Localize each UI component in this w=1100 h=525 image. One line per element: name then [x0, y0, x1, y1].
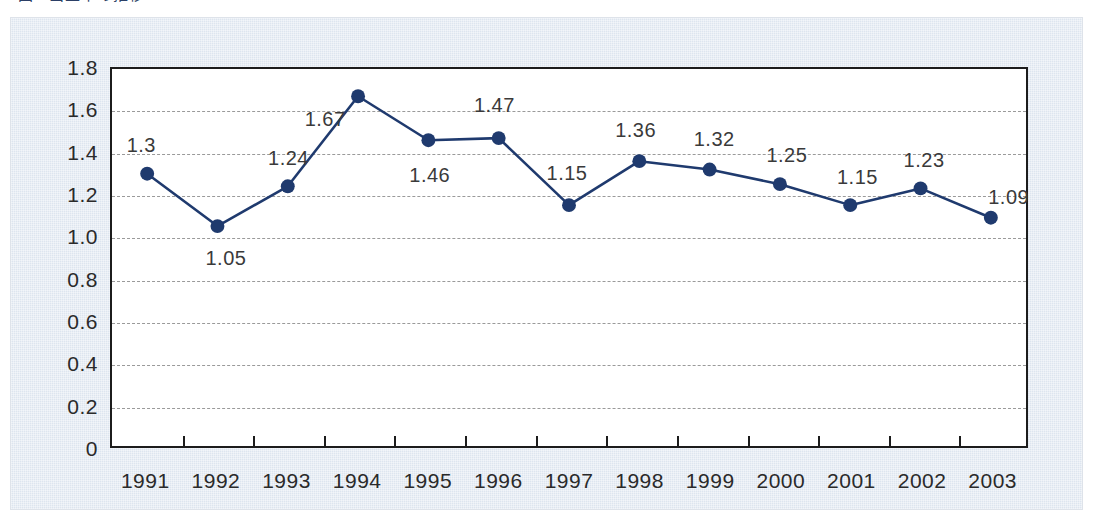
data-point-marker [421, 133, 435, 147]
y-axis-tick-label: 0.8 [28, 269, 98, 290]
x-axis-tick-label: 1999 [675, 470, 746, 492]
data-point-label: 1.67 [305, 109, 346, 129]
data-point-marker [281, 179, 295, 193]
line-series [112, 69, 1026, 446]
data-point-marker [632, 154, 646, 168]
data-point-marker [210, 219, 224, 233]
caption-sliver: 図1 出生率の推移 [18, 0, 578, 7]
x-axis-tick-label: 1998 [604, 470, 675, 492]
y-axis-tick-label: 1.4 [28, 142, 98, 163]
x-axis-tick-label: 1997 [534, 470, 605, 492]
data-point-marker [984, 211, 998, 225]
plot-area: 1.31.051.241.671.461.471.151.361.321.251… [110, 67, 1028, 448]
x-axis-tick-label: 1992 [181, 470, 252, 492]
x-axis-tick-label: 1993 [251, 470, 322, 492]
x-axis-tick-label: 2000 [746, 470, 817, 492]
data-point-label: 1.25 [766, 145, 807, 165]
data-point-marker [351, 89, 365, 103]
caption-sliver-text: 図1 出生率の推移 [18, 0, 145, 3]
x-axis-tick-label: 1991 [110, 470, 181, 492]
x-axis-tick-label: 1995 [392, 470, 463, 492]
data-point-label: 1.36 [615, 120, 656, 140]
data-point-label: 1.32 [694, 129, 735, 149]
data-point-label: 1.15 [547, 163, 588, 183]
y-axis-tick-label: 1.0 [28, 226, 98, 247]
x-axis-tick-label: 1996 [463, 470, 534, 492]
data-point-marker [843, 198, 857, 212]
data-point-marker [703, 163, 717, 177]
x-axis-tick-label: 2003 [957, 470, 1028, 492]
y-axis-tick-label: 0.6 [28, 311, 98, 332]
figure-page: 図1 出生率の推移 00.20.40.60.81.01.21.41.61.8 1… [0, 0, 1100, 525]
data-point-label: 1.05 [205, 248, 246, 268]
y-axis-tick-label: 1.6 [28, 99, 98, 120]
y-axis-tick-label: 1.2 [28, 184, 98, 205]
y-axis-tick-label: 0 [28, 438, 98, 459]
data-point-label: 1.46 [409, 165, 450, 185]
data-point-marker [914, 181, 928, 195]
x-axis-tick-label: 1994 [322, 470, 393, 492]
x-axis-tick-label: 2002 [887, 470, 958, 492]
data-point-label: 1.47 [474, 95, 515, 115]
x-axis-tick-label: 2001 [816, 470, 887, 492]
data-point-label: 1.24 [268, 148, 309, 168]
y-axis-tick-label: 0.4 [28, 353, 98, 374]
data-point-label: 1.23 [904, 150, 945, 170]
data-point-marker [140, 167, 154, 181]
y-axis-tick-label: 0.2 [28, 396, 98, 417]
data-point-marker [492, 131, 506, 145]
data-point-label: 1.09 [988, 187, 1029, 207]
data-point-label: 1.3 [127, 135, 156, 155]
data-point-marker [773, 177, 787, 191]
figure-panel: 00.20.40.60.81.01.21.41.61.8 19911992199… [11, 18, 1082, 509]
data-point-label: 1.15 [837, 167, 878, 187]
data-point-marker [562, 198, 576, 212]
y-axis-tick-label: 1.8 [28, 57, 98, 78]
